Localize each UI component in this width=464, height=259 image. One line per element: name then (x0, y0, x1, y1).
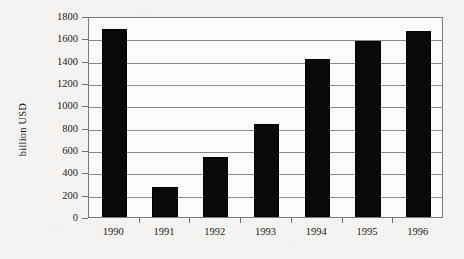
bar (355, 41, 380, 217)
bar (152, 187, 177, 217)
y-axis-tick-label: 400 (38, 168, 78, 178)
x-axis-tick-label: 1992 (189, 226, 240, 238)
gridline (89, 85, 442, 86)
x-axis-tick-label: 1991 (139, 226, 190, 238)
y-axis-title: billion USD (14, 0, 32, 259)
x-axis-tick-mark (189, 218, 190, 223)
y-axis-tick-label: 200 (38, 191, 78, 201)
y-axis-tick-label: 1600 (38, 34, 78, 44)
bar-chart: billion USD 0200400600800100012001400160… (0, 0, 464, 259)
y-axis-tick-label: 1800 (38, 12, 78, 22)
y-axis-tick-mark (82, 218, 88, 219)
plot-area (88, 17, 443, 218)
y-axis-tick-label: 800 (38, 124, 78, 134)
x-axis-tick-label: 1995 (342, 226, 393, 238)
x-axis-tick-label: 1994 (291, 226, 342, 238)
gridline (89, 63, 442, 64)
y-axis-tick-label: 1400 (38, 57, 78, 67)
gridline (89, 107, 442, 108)
y-axis-tick-label: 1000 (38, 101, 78, 111)
y-axis-tick-label: 1200 (38, 79, 78, 89)
x-axis-tick-label: 1996 (392, 226, 443, 238)
bar (305, 59, 330, 217)
x-axis-tick-mark (139, 218, 140, 223)
bar (406, 31, 431, 217)
x-axis-tick-mark (240, 218, 241, 223)
y-axis-tick-label: 600 (38, 146, 78, 156)
bar (102, 29, 127, 217)
gridline (89, 40, 442, 41)
x-axis-tick-mark (291, 218, 292, 223)
x-axis-tick-mark (342, 218, 343, 223)
bar (203, 157, 228, 217)
y-axis-tick-label: 0 (38, 213, 78, 223)
bar (254, 124, 279, 217)
x-axis-tick-label: 1990 (88, 226, 139, 238)
x-axis-tick-mark (392, 218, 393, 223)
x-axis-tick-label: 1993 (240, 226, 291, 238)
